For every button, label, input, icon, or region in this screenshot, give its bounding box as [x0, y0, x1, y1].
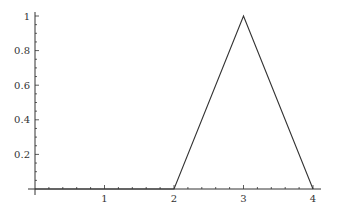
y-tick-label: 0.4: [14, 114, 30, 125]
y-tick-label: 0.6: [14, 80, 30, 91]
ticks: [35, 16, 313, 189]
x-tick-label: 2: [171, 193, 177, 204]
y-tick-label: 0.2: [14, 149, 30, 160]
y-tick-label: 0.8: [14, 45, 30, 56]
data-line: [35, 16, 313, 189]
axes: [28, 12, 321, 195]
x-tick-label: 4: [310, 193, 316, 204]
plot-area: [35, 16, 313, 189]
y-tick-label: 1: [24, 11, 30, 22]
tick-labels: 12340.20.40.60.81: [14, 11, 316, 205]
x-tick-label: 1: [101, 193, 107, 204]
chart: 12340.20.40.60.81: [0, 0, 340, 214]
x-tick-label: 3: [240, 193, 246, 204]
